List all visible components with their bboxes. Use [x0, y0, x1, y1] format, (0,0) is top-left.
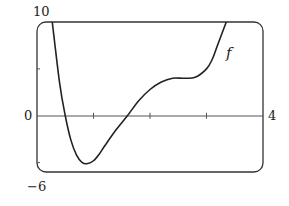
curve-f	[52, 22, 226, 164]
curve-label-f: f	[226, 46, 232, 61]
origin-label: 0	[24, 109, 32, 122]
y-max-label: 10	[33, 5, 50, 18]
y-min-label: −6	[27, 180, 46, 193]
x-max-label: 4	[268, 109, 276, 122]
plot-area	[0, 0, 289, 206]
